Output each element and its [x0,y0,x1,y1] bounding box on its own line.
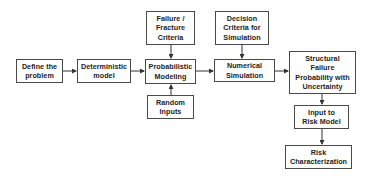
node-failure-criteria: Failure / Fracture Criteria [146,11,195,45]
node-label: Define the problem [22,62,57,81]
node-label: Risk Characterization [290,148,347,167]
node-decision-criteria: Decision Criteria for Simulation [215,11,269,45]
node-deterministic-model: Deterministic model [77,59,131,83]
node-random-inputs: Random Inputs [147,95,194,119]
node-label: Failure / Fracture Criteria [156,14,185,43]
node-label: Probabilistic Modeling [149,62,193,81]
node-input-to-risk-model: Input to Risk Model [294,105,349,129]
node-label: Structural Failure Probability with Unce… [295,54,349,92]
node-probabilistic-modeling: Probabilistic Modeling [145,59,196,84]
node-label: Deterministic model [81,62,127,81]
node-risk-characterization: Risk Characterization [285,145,352,169]
node-label: Random Inputs [156,98,185,117]
node-numerical-simulation: Numerical Simulation [214,59,275,82]
node-structural-failure-probability: Structural Failure Probability with Unce… [289,51,356,94]
node-label: Decision Criteria for Simulation [223,14,260,43]
node-label: Input to Risk Model [302,108,340,127]
node-define-problem: Define the problem [16,59,63,83]
node-label: Numerical Simulation [226,61,263,80]
